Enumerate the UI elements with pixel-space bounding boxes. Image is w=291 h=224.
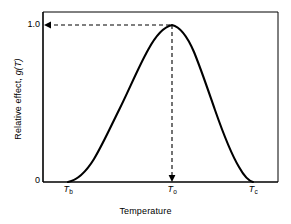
y-axis-title-function: g: [13, 70, 23, 75]
x-axis-tick-label-tc: Tc: [249, 184, 258, 194]
x-tick-tc-base: T: [249, 184, 255, 194]
x-axis-tick-label-to: To: [167, 184, 176, 194]
chart-plot-area: [0, 0, 291, 224]
x-tick-tb-base: T: [63, 184, 69, 194]
plot-background: [43, 12, 278, 182]
y-axis-tick-label-top: 1.0: [22, 19, 40, 29]
y-axis-title-argument: (T): [13, 58, 23, 70]
chart-figure: 1.0 0 Tb To Tc Temperature Relative effe…: [0, 0, 291, 224]
y-axis-title-prefix: Relative effect,: [13, 75, 23, 139]
x-axis-title: Temperature: [0, 206, 291, 216]
x-tick-tb-subscript: b: [69, 188, 73, 195]
x-tick-tc-subscript: c: [254, 188, 257, 195]
x-axis-tick-label-tb: Tb: [63, 184, 72, 194]
x-tick-to-subscript: o: [173, 188, 177, 195]
y-axis-title: Relative effect, g(T): [13, 29, 23, 169]
x-tick-to-base: T: [167, 184, 173, 194]
y-axis-tick-label-zero: 0: [22, 175, 40, 185]
